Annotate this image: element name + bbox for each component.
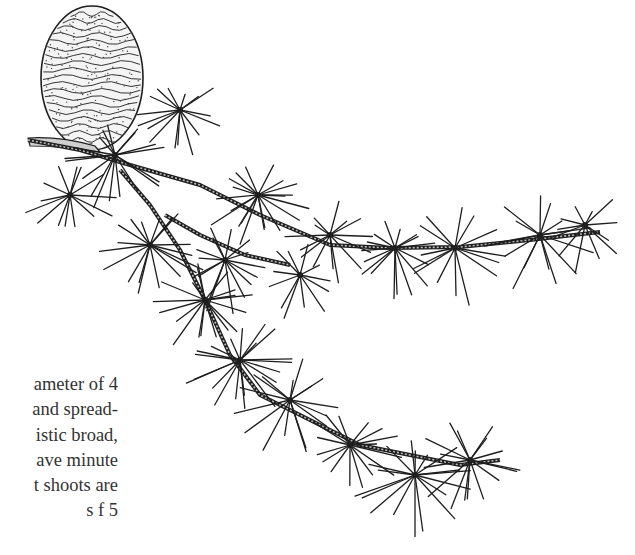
- needle: [285, 235, 330, 237]
- cone-stipple: [113, 137, 114, 138]
- needle: [350, 445, 363, 487]
- needle: [455, 248, 505, 256]
- cone-stipple: [87, 75, 88, 76]
- cone-stipple: [57, 47, 58, 48]
- text-line: ameter of 4: [0, 372, 118, 397]
- needle: [70, 195, 116, 198]
- cone-stipple: [88, 38, 89, 39]
- needle: [313, 422, 350, 445]
- cone-stipple: [124, 98, 125, 99]
- needle-cluster-base: [412, 472, 418, 478]
- needle: [290, 359, 303, 400]
- cone-stipple: [86, 130, 87, 131]
- cone-stipple: [69, 24, 70, 25]
- cone-stipple: [116, 131, 117, 132]
- needle-cluster-base: [222, 257, 228, 263]
- cone-stipple: [82, 18, 83, 19]
- needle: [281, 275, 300, 308]
- cone-stipple: [111, 39, 112, 40]
- cone-stipple: [82, 94, 83, 95]
- cone-stipple: [55, 121, 56, 122]
- cone-stipple: [103, 57, 104, 58]
- needle: [426, 439, 470, 460]
- needle: [199, 260, 225, 276]
- needle: [415, 475, 455, 519]
- needle-cluster-base: [467, 457, 473, 463]
- needle-cluster-base: [202, 297, 208, 303]
- needle: [41, 195, 70, 201]
- cone-stipple: [55, 129, 56, 130]
- cone-stipple: [61, 135, 62, 136]
- cone-stipple: [60, 56, 61, 57]
- cone-stipple: [69, 65, 70, 66]
- cone-stipple: [122, 50, 123, 51]
- needle: [505, 207, 541, 235]
- cone-stipple: [107, 73, 108, 74]
- cluster-6: [414, 208, 505, 306]
- cluster-13: [187, 325, 292, 409]
- cone-stipple: [130, 92, 131, 93]
- cone-stipple: [72, 22, 73, 23]
- cone-stipple: [94, 23, 95, 24]
- cone-stipple: [72, 89, 73, 90]
- cone-stipple: [71, 59, 72, 60]
- cone-stipple: [125, 131, 126, 132]
- cone-stipple: [89, 30, 90, 31]
- needle: [173, 300, 205, 345]
- cone-stipple: [54, 49, 55, 50]
- cone-stipple: [129, 81, 130, 82]
- cone-stipple: [59, 114, 60, 115]
- body-text: ameter of 4 and spread- istic broad, ave…: [0, 372, 118, 524]
- needle: [585, 200, 612, 225]
- needle-cluster-base: [177, 107, 183, 113]
- needle: [177, 300, 205, 321]
- needle-cluster-base: [452, 245, 458, 251]
- cone-stipple: [91, 143, 92, 144]
- needle: [371, 248, 395, 273]
- needle-cluster-base: [582, 222, 588, 228]
- cone-stipple: [58, 53, 59, 54]
- needle: [300, 265, 319, 275]
- needle: [240, 325, 265, 361]
- needle: [455, 248, 456, 296]
- cone-stipple: [67, 54, 68, 55]
- cone-stipple: [75, 106, 76, 107]
- cone-stipple: [89, 58, 90, 59]
- needle: [158, 89, 180, 110]
- cone-stipple: [60, 30, 61, 31]
- cone-stipple: [87, 67, 88, 68]
- needle: [150, 245, 159, 288]
- cone-stipple: [98, 130, 99, 131]
- needle: [290, 400, 338, 408]
- cone-stipple: [88, 126, 89, 127]
- needle-cluster-base: [537, 232, 543, 238]
- needle: [371, 475, 415, 513]
- cone-stipple: [95, 54, 96, 55]
- cone-stipple: [81, 30, 82, 31]
- pine-cone: [28, 6, 143, 152]
- cone-stipple: [104, 32, 105, 33]
- cone-stipple: [129, 94, 130, 95]
- cone-stipple: [96, 115, 97, 116]
- cone-stipple: [71, 122, 72, 123]
- cone-stipple: [73, 33, 74, 34]
- needle: [441, 454, 470, 460]
- needle-cluster-base: [112, 152, 118, 158]
- needle: [290, 379, 323, 400]
- cone-stipple: [49, 50, 50, 51]
- cone-stipple: [71, 108, 72, 109]
- needle: [119, 225, 151, 245]
- cone-stipple: [127, 51, 128, 52]
- cone-stipple: [125, 40, 126, 41]
- cone-stipple: [100, 127, 101, 128]
- cone-stipple: [66, 101, 67, 102]
- needle-cluster-base: [297, 272, 303, 278]
- cone-stipple: [86, 65, 87, 66]
- needle: [153, 300, 205, 302]
- needle: [455, 248, 499, 263]
- cone-stipple: [116, 81, 117, 82]
- cone-stipple: [76, 107, 77, 108]
- cone-stipple: [46, 66, 47, 67]
- needle: [150, 244, 190, 245]
- cone-stipple: [118, 109, 119, 110]
